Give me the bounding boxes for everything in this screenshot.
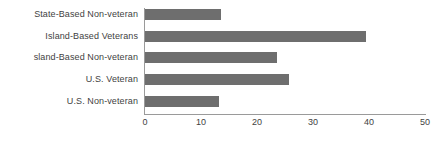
y-axis-label-1: Island-Based Veterans <box>0 31 138 42</box>
x-tick-label-1: 10 <box>196 117 206 128</box>
bar-0 <box>145 9 221 20</box>
bar-chart: State-Based Non-veteran Island-Based Vet… <box>0 0 438 147</box>
x-axis-tick-labels: 0 10 20 30 40 50 <box>0 117 438 131</box>
x-tick-label-4: 40 <box>364 117 374 128</box>
x-tick-label-5: 50 <box>420 117 430 128</box>
x-axis-line <box>144 114 426 115</box>
bar-4 <box>145 96 219 107</box>
y-axis-label-2: sland-Based Non-veteran <box>0 52 138 63</box>
x-tick-label-0: 0 <box>142 117 147 128</box>
bar-3 <box>145 74 289 85</box>
bar-2 <box>145 52 277 63</box>
x-tick-label-3: 30 <box>308 117 318 128</box>
y-axis-category-labels: State-Based Non-veteran Island-Based Vet… <box>0 0 141 114</box>
y-axis-label-4: U.S. Non-veteran <box>0 96 138 107</box>
x-tick-label-2: 20 <box>252 117 262 128</box>
y-axis-line <box>144 8 145 114</box>
bar-1 <box>145 31 366 42</box>
y-axis-label-3: U.S. Veteran <box>0 74 138 85</box>
y-axis-label-0: State-Based Non-veteran <box>0 9 138 20</box>
plot-area <box>145 0 425 114</box>
